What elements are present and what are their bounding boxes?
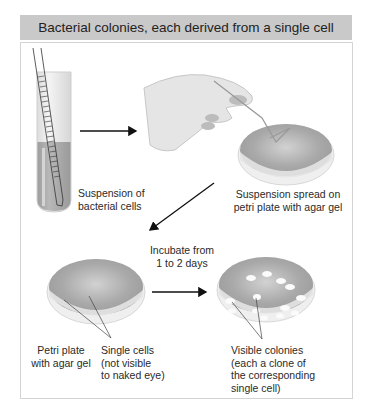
label-line: Suspension of — [78, 187, 145, 200]
label-line: to naked eye) — [101, 369, 165, 382]
test-tube-icon — [37, 72, 71, 212]
label-line: with agar gel — [28, 357, 94, 370]
arrow-diagonal — [150, 183, 214, 230]
label-line: Petri plate — [28, 344, 94, 357]
petri-plate-spread-icon — [238, 124, 334, 185]
label-line: Incubate from — [142, 244, 222, 257]
label-line: bacterial cells — [78, 200, 145, 213]
label-line: Single cells — [101, 344, 165, 357]
petri-plate-icon — [47, 259, 145, 324]
label-visible-colonies: Visible colonies (each a clone of the co… — [231, 344, 315, 394]
label-line: 1 to 2 days — [142, 257, 222, 270]
label-line: (not visible — [101, 357, 165, 370]
label-suspension-of-cells: Suspension of bacterial cells — [78, 187, 145, 212]
label-single-cells: Single cells (not visible to naked eye) — [101, 344, 165, 382]
label-line: Suspension spread on — [226, 188, 350, 201]
label-line: the corresponding — [231, 369, 315, 382]
label-petri-plate: Petri plate with agar gel — [28, 344, 94, 369]
label-line: single cell) — [231, 382, 315, 395]
label-line: (each a clone of — [231, 357, 315, 370]
label-suspension-spread: Suspension spread on petri plate with ag… — [226, 188, 350, 213]
label-line: petri plate with agar gel — [226, 201, 350, 214]
label-incubate: Incubate from 1 to 2 days — [142, 244, 222, 269]
label-line: Visible colonies — [231, 344, 315, 357]
